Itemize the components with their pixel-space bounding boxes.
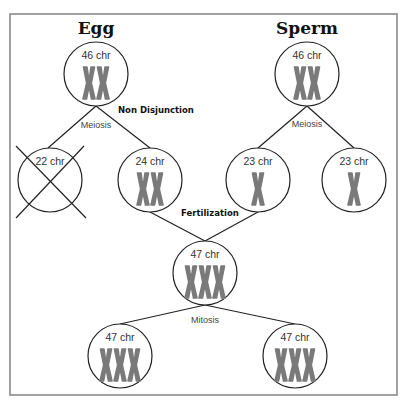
chromosome-count-label: 47 chr [105,331,135,343]
sperm-title: Sperm [276,18,338,38]
cell-sperm-gamete-a: 23 chr [226,148,290,212]
egg-meiosis-label: Meiosis [81,120,112,130]
sperm-meiosis-label: Meiosis [292,119,323,129]
cell-sperm-parent: 46 chr [275,42,339,106]
cell-daughter-a: 47 chr [88,324,152,388]
chromosome-count-label: 47 chr [280,331,310,343]
mitosis-label: Mitosis [191,315,220,325]
cell-zygote: 47 chr [173,241,237,305]
chromosome-count-label: 23 chr [243,155,273,167]
cell-daughter-b: 47 chr [263,324,327,388]
cell-egg-gamete-b: 24 chr [118,148,182,212]
egg-title: Egg [78,18,115,38]
fertilization-label: Fertilization [181,208,239,218]
nondisjunction-diagram: Egg Sperm Meiosis Meiosis Mitosis Non Di… [0,0,406,405]
chromosome-count-label: 46 chr [81,49,111,61]
chromosome-count-label: 23 chr [339,155,369,167]
chromosome-count-label: 47 chr [190,248,220,260]
cell-sperm-gamete-b: 23 chr [322,148,386,212]
chromosome-count-label: 22 chr [35,155,65,167]
non-disjunction-label: Non Disjunction [118,105,194,115]
chromosome-count-label: 24 chr [135,155,165,167]
cell-egg-parent: 46 chr [64,42,128,106]
chromosome-count-label: 46 chr [292,49,322,61]
